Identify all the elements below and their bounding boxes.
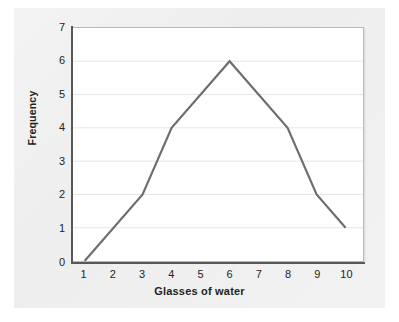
frequency-line bbox=[85, 61, 346, 261]
x-axis-title: Glasses of water bbox=[14, 285, 385, 297]
y-tick-label: 6 bbox=[43, 55, 65, 66]
y-tick-label: 0 bbox=[43, 257, 65, 268]
y-tick-label: 7 bbox=[43, 22, 65, 33]
y-tick-label: 5 bbox=[43, 89, 65, 100]
x-tick-label: 10 bbox=[334, 269, 358, 280]
x-tick-label: 6 bbox=[218, 269, 242, 280]
y-tick-label: 1 bbox=[43, 223, 65, 234]
x-tick-label: 1 bbox=[72, 269, 96, 280]
y-tick-label: 3 bbox=[43, 156, 65, 167]
x-tick-label: 2 bbox=[101, 269, 125, 280]
y-tick-label: 2 bbox=[43, 189, 65, 200]
chart-figure-card: Frequency 01234567 12345678910 Glasses o… bbox=[14, 8, 385, 308]
y-tick-label: 4 bbox=[43, 122, 65, 133]
data-line-layer bbox=[73, 28, 363, 261]
x-tick-label: 7 bbox=[247, 269, 271, 280]
x-tick-label: 3 bbox=[130, 269, 154, 280]
x-tick-label: 5 bbox=[188, 269, 212, 280]
x-tick-label: 9 bbox=[305, 269, 329, 280]
y-axis-title: Frequency bbox=[26, 73, 38, 163]
x-tick-label: 4 bbox=[159, 269, 183, 280]
plot-area bbox=[72, 27, 364, 262]
y-axis-line bbox=[71, 26, 73, 264]
x-tick-label: 8 bbox=[276, 269, 300, 280]
x-axis-line bbox=[71, 262, 365, 264]
